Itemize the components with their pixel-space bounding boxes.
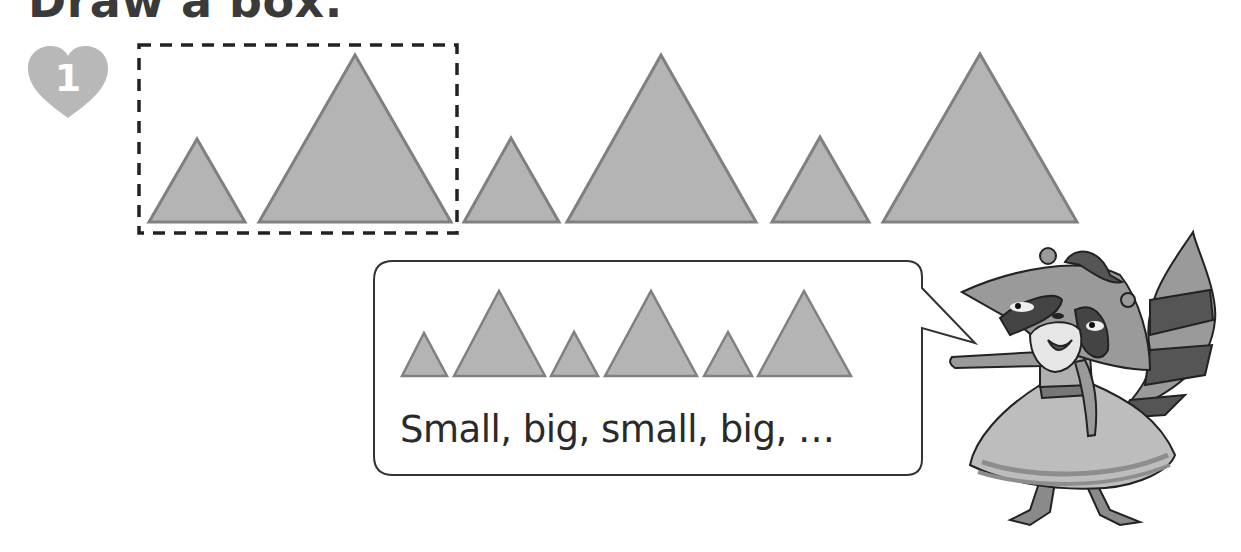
worksheet-canvas (0, 0, 1241, 552)
triangle-small[interactable] (464, 138, 559, 222)
raccoon-illustration (950, 232, 1215, 525)
triangle-big[interactable] (567, 55, 756, 222)
triangle-small[interactable] (772, 137, 869, 222)
triangle-big[interactable] (883, 54, 1077, 222)
pattern-row[interactable] (149, 54, 1077, 222)
triangle-small[interactable] (149, 139, 245, 222)
speech-bubble-text: Small, big, small, big, … (400, 408, 834, 451)
triangle-big[interactable] (259, 55, 451, 222)
